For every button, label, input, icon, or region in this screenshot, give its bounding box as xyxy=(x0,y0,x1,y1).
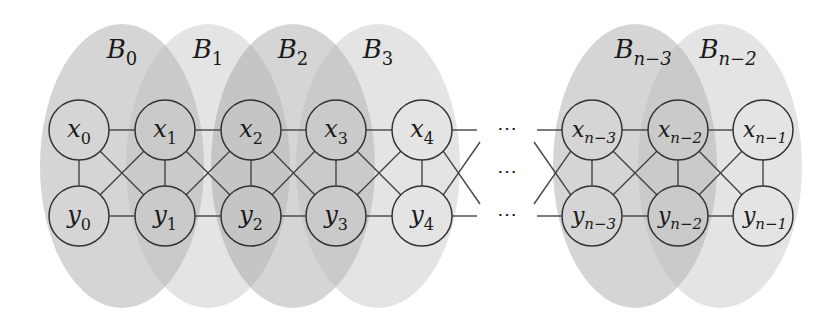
ellipsis: ⋯ xyxy=(497,116,517,140)
ellipsis: ⋯ xyxy=(497,202,517,226)
ellipsis: ⋯ xyxy=(497,159,517,183)
diagram-svg: x0x1x2x3x4xn−3xn−2xn−1y0y1y2y3y4yn−3yn−2… xyxy=(0,0,834,314)
ellipsis-layer: ⋯⋯⋯ xyxy=(497,116,517,226)
bag-b3 xyxy=(296,24,460,308)
bags-layer xyxy=(40,24,802,308)
graph-diagram: x0x1x2x3x4xn−3xn−2xn−1y0y1y2y3y4yn−3yn−2… xyxy=(0,0,834,314)
